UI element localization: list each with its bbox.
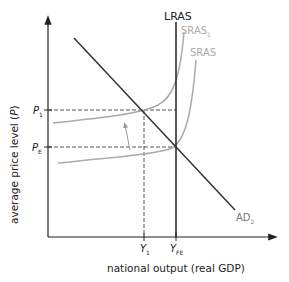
x-axis-label: national output (real GDP) — [107, 262, 245, 274]
y-axis-label: average price level (P) — [8, 105, 20, 224]
ad-label: AD2 — [236, 212, 255, 225]
p1-label: P1 — [33, 105, 43, 118]
ad-as-diagram: LRAS SRAS1 SRAS AD2 P1 PE Y1 YFE nationa… — [0, 0, 289, 282]
pe-label: PE — [32, 142, 42, 155]
shift-arrow — [125, 125, 130, 150]
lras-label: LRAS — [164, 10, 192, 23]
sras-label: SRAS — [190, 47, 216, 58]
sras1-label: SRAS1 — [181, 25, 211, 38]
sras1-curve — [53, 32, 184, 123]
ad-line — [74, 38, 235, 210]
y1-label: Y1 — [140, 243, 150, 256]
yfe-label: YFE — [170, 243, 184, 256]
